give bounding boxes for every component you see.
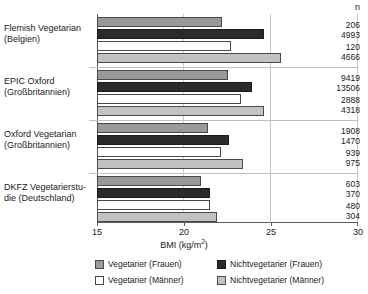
legend-label: Nichtvegetarier (Männer) (230, 275, 324, 285)
x-axis-title-close: ) (205, 240, 208, 250)
legend-item-vegetarier-maenner[interactable]: Vegetarier (Männer) (95, 275, 217, 285)
bar-veg-m-group-2[interactable] (97, 94, 241, 104)
bar-nonveg-f-group-3[interactable] (97, 135, 229, 145)
bar-veg-f-group-4[interactable] (97, 176, 201, 186)
category-label-line1: Flemish Vegetarian (4, 23, 92, 34)
legend-swatch-icon (217, 276, 226, 285)
category-label-line2: (Großbritannien) (4, 140, 92, 151)
x-axis-title: BMI (kg/m2) (0, 238, 368, 250)
x-tick-mark (97, 222, 98, 226)
n-column-header: n (320, 2, 360, 12)
x-axis-line (97, 222, 358, 223)
bar-nonveg-f-group-2[interactable] (97, 82, 252, 92)
n-value: 1908 (316, 126, 360, 136)
n-group-4b: 480 304 (316, 201, 360, 221)
x-tick-mark (271, 222, 272, 226)
category-label-flemish: Flemish Vegetarian (Belgien) (4, 23, 92, 45)
n-value: 975 (316, 158, 360, 168)
n-group-3b: 939 975 (316, 148, 360, 168)
group-separator (89, 120, 358, 121)
category-label-line1: DKFZ Vegetarierstu- (4, 182, 92, 193)
category-label-line2: (Belgien) (4, 34, 92, 45)
bar-veg-m-group-3[interactable] (97, 147, 221, 157)
n-value: 4993 (316, 30, 360, 40)
bar-veg-f-group-2[interactable] (97, 70, 228, 80)
n-group-1b: 120 4666 (316, 42, 360, 62)
n-group-2b: 2888 4318 (316, 95, 360, 115)
bar-nonveg-f-group-1[interactable] (97, 29, 264, 39)
legend-item-nichtvegetarier-maenner[interactable]: Nichtvegetarier (Männer) (217, 275, 355, 285)
n-value: 9419 (316, 73, 360, 83)
n-group-3: 1908 1470 (316, 126, 360, 146)
x-tick-mark (357, 222, 358, 226)
n-value: 4666 (316, 52, 360, 62)
legend-item-vegetarier-frauen[interactable]: Vegetarier (Frauen) (95, 259, 217, 269)
n-value: 4318 (316, 105, 360, 115)
bar-nonveg-f-group-4[interactable] (97, 188, 210, 198)
x-tick-label: 25 (266, 227, 276, 237)
x-axis-title-main: BMI (kg/m (160, 240, 201, 250)
n-value: 480 (316, 201, 360, 211)
category-label-line1: Oxford Vegetarian (4, 129, 92, 140)
n-group-4: 603 370 (316, 179, 360, 199)
x-tick-label: 30 (353, 227, 363, 237)
group-separator (89, 173, 358, 174)
n-group-1: 206 4993 (316, 20, 360, 40)
legend-label: Nichtvegetarier (Frauen) (230, 259, 322, 269)
n-value: 939 (316, 148, 360, 158)
category-label-dkfz: DKFZ Vegetarierstu- die (Deutschland) (4, 182, 92, 204)
n-value: 370 (316, 189, 360, 199)
n-value: 13506 (316, 83, 360, 93)
group-separator (89, 67, 358, 68)
legend-swatch-icon (217, 260, 226, 269)
bar-veg-m-group-4[interactable] (97, 200, 210, 210)
n-value: 603 (316, 179, 360, 189)
n-group-2: 9419 13506 (316, 73, 360, 93)
category-label-line2: (Großbritannien) (4, 87, 92, 98)
n-value: 1470 (316, 136, 360, 146)
n-value: 206 (316, 20, 360, 30)
legend-label: Vegetarier (Männer) (108, 275, 184, 285)
category-label-epic-oxford: EPIC Oxford (Großbritannien) (4, 76, 92, 98)
n-value: 304 (316, 211, 360, 221)
bar-veg-f-group-1[interactable] (97, 17, 222, 27)
legend-item-nichtvegetarier-frauen[interactable]: Nichtvegetarier (Frauen) (217, 259, 355, 269)
bar-veg-m-group-1[interactable] (97, 41, 231, 51)
category-label-oxford-vegetarian: Oxford Vegetarian (Großbritannien) (4, 129, 92, 151)
gridline (270, 14, 271, 222)
bar-veg-f-group-3[interactable] (97, 123, 208, 133)
category-label-line1: EPIC Oxford (4, 76, 92, 87)
x-tick-mark (184, 222, 185, 226)
bar-nonveg-m-group-1[interactable] (97, 53, 281, 63)
category-label-line2: die (Deutschland) (4, 193, 92, 204)
bmi-bar-chart: n 15202530 Flemish Vegetarian (Belgien) … (0, 0, 368, 294)
legend-label: Vegetarier (Frauen) (108, 259, 182, 269)
x-tick-label: 20 (179, 227, 189, 237)
legend-swatch-icon (95, 276, 104, 285)
n-value: 120 (316, 42, 360, 52)
x-tick-label: 15 (92, 227, 102, 237)
chart-legend: Vegetarier (Frauen) Nichtvegetarier (Fra… (95, 256, 355, 288)
legend-swatch-icon (95, 260, 104, 269)
bar-nonveg-m-group-2[interactable] (97, 106, 264, 116)
bar-nonveg-m-group-3[interactable] (97, 159, 243, 169)
n-value: 2888 (316, 95, 360, 105)
bar-nonveg-m-group-4[interactable] (97, 212, 217, 222)
